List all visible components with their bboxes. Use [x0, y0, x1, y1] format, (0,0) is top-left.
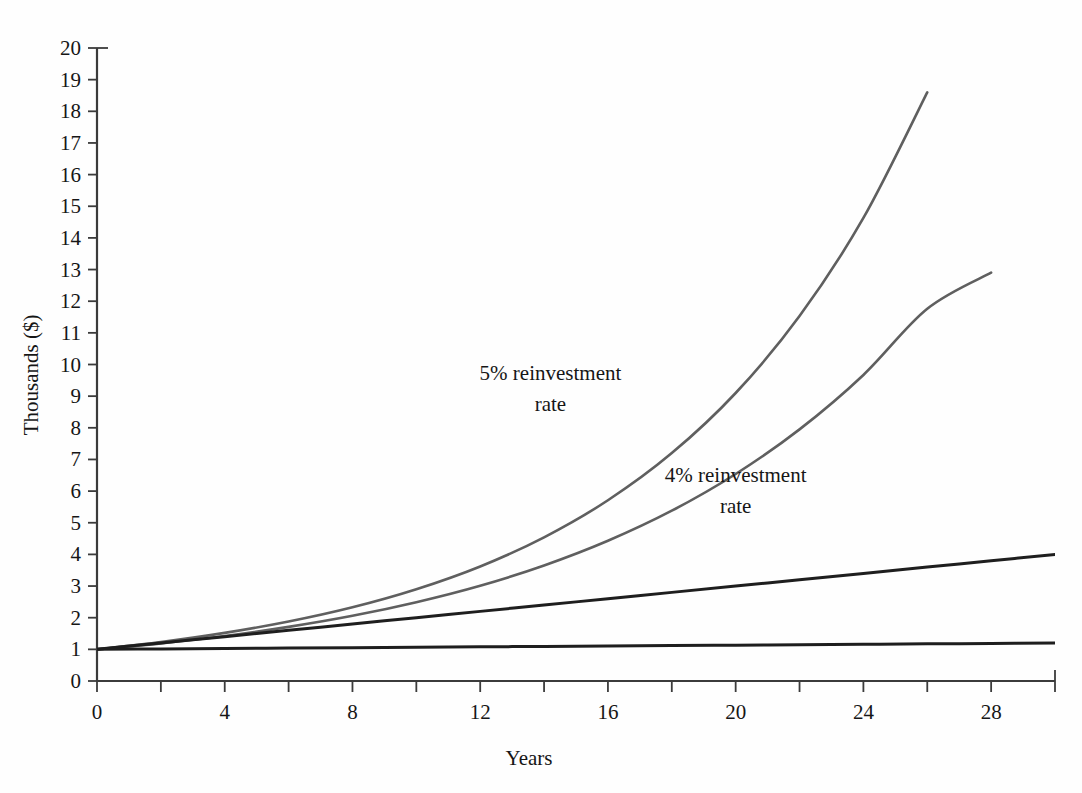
- y-tick-label: 10: [60, 353, 81, 377]
- y-tick-label: 3: [71, 574, 82, 598]
- annotation-4-percent: 4% reinvestment: [665, 463, 807, 487]
- y-tick-label: 0: [71, 669, 82, 693]
- annotation-4-percent: rate: [720, 494, 751, 518]
- y-tick-label: 5: [71, 511, 82, 535]
- annotation-5-percent: 5% reinvestment: [480, 361, 622, 385]
- y-tick-label: 19: [60, 68, 81, 92]
- x-tick-label: 0: [92, 700, 103, 724]
- chart-figure: 01234567891011121314151617181920 0481216…: [0, 0, 1082, 793]
- x-tick-label: 8: [347, 700, 358, 724]
- x-tick-label: 16: [597, 700, 618, 724]
- y-tick-label: 2: [71, 606, 82, 630]
- x-tick-label: 4: [219, 700, 230, 724]
- y-tick-label: 11: [61, 321, 81, 345]
- y-tick-label: 16: [60, 163, 81, 187]
- y-tick-label: 17: [60, 131, 81, 155]
- y-tick-label: 13: [60, 258, 81, 282]
- y-tick-label: 7: [71, 447, 82, 471]
- y-tick-label: 15: [60, 194, 81, 218]
- y-tick-label: 6: [71, 479, 82, 503]
- y-tick-label: 20: [60, 36, 81, 60]
- x-tick-label: 12: [470, 700, 491, 724]
- investment-growth-chart: 01234567891011121314151617181920 0481216…: [0, 0, 1082, 793]
- x-tick-label: 20: [725, 700, 746, 724]
- y-tick-label: 8: [71, 416, 82, 440]
- y-tick-label: 9: [71, 384, 82, 408]
- y-tick-label: 4: [71, 542, 82, 566]
- x-tick-label: 28: [981, 700, 1002, 724]
- x-tick-label: 24: [853, 700, 875, 724]
- y-axis-title: Thousands ($): [19, 315, 43, 436]
- y-tick-label: 18: [60, 99, 81, 123]
- y-tick-label: 1: [71, 637, 82, 661]
- y-tick-label: 12: [60, 289, 81, 313]
- y-tick-label: 14: [60, 226, 82, 250]
- x-axis-title: Years: [506, 746, 553, 770]
- annotation-5-percent: rate: [535, 392, 566, 416]
